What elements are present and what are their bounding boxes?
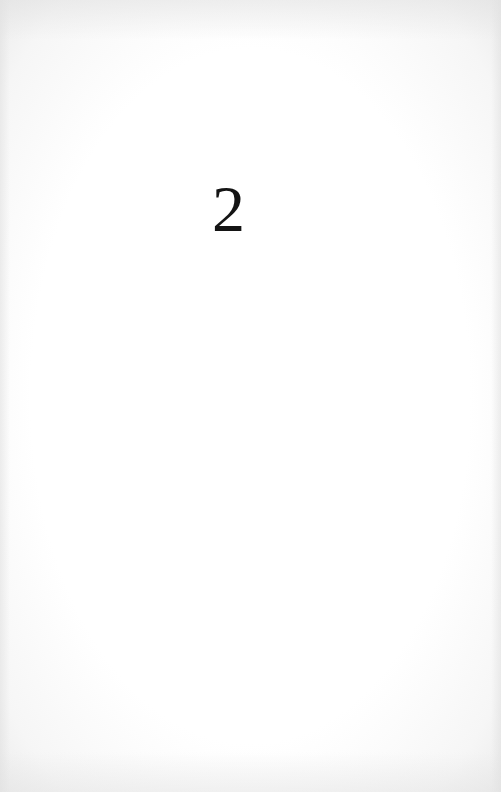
scan-edge-right [491, 0, 501, 792]
chapter-number: 2 [212, 176, 245, 242]
scan-edge-bottom [0, 752, 501, 792]
scanned-page: 2 [0, 0, 501, 792]
scan-edge-left [0, 0, 10, 792]
scan-edge-top [0, 0, 501, 40]
